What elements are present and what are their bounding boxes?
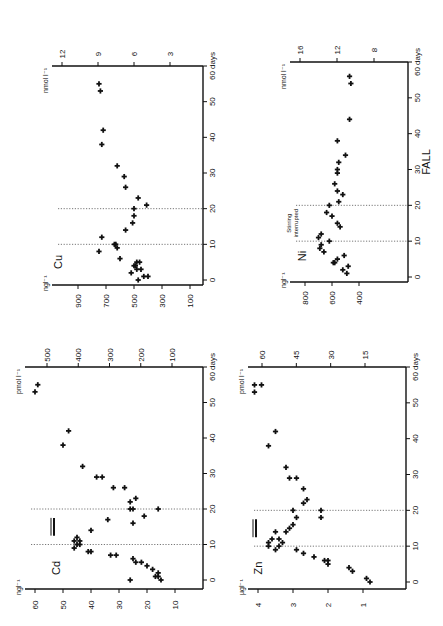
value-tick-label: 1 bbox=[359, 602, 368, 607]
data-point bbox=[142, 514, 147, 519]
value-tick-label: 800 bbox=[301, 291, 310, 305]
secondary-tick-label: 9 bbox=[94, 51, 103, 56]
data-point bbox=[74, 542, 79, 547]
data-point bbox=[311, 554, 316, 559]
data-point bbox=[111, 485, 116, 490]
data-point bbox=[96, 249, 101, 254]
value-tick-label: 700 bbox=[102, 294, 111, 308]
data-point bbox=[153, 574, 158, 579]
day-tick-label: 0 bbox=[208, 577, 217, 582]
secondary-tick-label: 8 bbox=[370, 47, 379, 52]
data-point bbox=[335, 167, 340, 172]
data-point bbox=[280, 540, 285, 545]
data-point bbox=[129, 270, 134, 275]
day-tick-label: 30 bbox=[208, 168, 217, 177]
data-point bbox=[259, 382, 264, 387]
secondary-tick-label: 500 bbox=[43, 348, 52, 362]
day-tick-label: 60 days bbox=[411, 353, 420, 381]
data-point bbox=[72, 538, 77, 543]
data-point bbox=[32, 389, 37, 394]
value-tick-label: 4 bbox=[254, 602, 263, 607]
data-point bbox=[88, 528, 93, 533]
data-point bbox=[335, 188, 340, 193]
day-tick-label: 10 bbox=[413, 236, 422, 245]
data-point bbox=[287, 475, 292, 480]
data-point bbox=[94, 474, 99, 479]
data-point bbox=[133, 496, 138, 501]
element-label: Cu bbox=[52, 255, 64, 269]
data-point bbox=[332, 181, 337, 186]
panel-zn bbox=[248, 363, 410, 593]
data-point bbox=[86, 549, 91, 554]
data-point bbox=[276, 544, 281, 549]
day-tick-label: 60 days bbox=[208, 353, 217, 381]
data-point bbox=[294, 515, 299, 520]
data-point bbox=[66, 428, 71, 433]
data-point bbox=[273, 529, 278, 534]
value-tick-label: 2 bbox=[324, 602, 333, 607]
panel-ni bbox=[290, 58, 412, 286]
primary-unit-label: ngl⁻¹ bbox=[280, 272, 288, 288]
data-point bbox=[290, 522, 295, 527]
data-point bbox=[130, 220, 135, 225]
data-point bbox=[74, 535, 79, 540]
data-point bbox=[72, 545, 77, 550]
data-point bbox=[80, 464, 85, 469]
data-point bbox=[266, 540, 271, 545]
secondary-tick-label: 200 bbox=[137, 348, 146, 362]
panel-cu bbox=[52, 62, 207, 289]
data-point bbox=[276, 536, 281, 541]
data-point bbox=[335, 138, 340, 143]
day-tick-label: 40 bbox=[208, 132, 217, 141]
data-point bbox=[324, 210, 329, 215]
secondary-tick-label: 15 bbox=[361, 350, 370, 359]
page-label-fall: FALL bbox=[420, 149, 432, 175]
element-label: Zn bbox=[252, 562, 264, 575]
value-tick-label: 900 bbox=[74, 294, 83, 308]
day-tick-label: 30 bbox=[411, 470, 420, 479]
data-point bbox=[301, 551, 306, 556]
value-tick-label: 50 bbox=[59, 600, 68, 609]
figure-canvas: 0102030405060 days10030050070090036912ng… bbox=[0, 0, 443, 626]
primary-unit-label: ngl⁻¹ bbox=[42, 275, 50, 291]
data-point bbox=[347, 117, 352, 122]
secondary-tick-label: 100 bbox=[168, 348, 177, 362]
day-tick-label: 60 days bbox=[208, 52, 217, 80]
data-point bbox=[342, 253, 347, 258]
data-point bbox=[101, 128, 106, 133]
data-point bbox=[123, 227, 128, 232]
data-point bbox=[327, 203, 332, 208]
data-point bbox=[122, 485, 127, 490]
data-point bbox=[158, 577, 163, 582]
data-point bbox=[364, 576, 369, 581]
data-point bbox=[294, 547, 299, 552]
data-point bbox=[294, 475, 299, 480]
day-tick-label: 0 bbox=[413, 274, 422, 279]
data-point bbox=[252, 382, 257, 387]
data-point bbox=[318, 508, 323, 513]
data-point bbox=[348, 81, 353, 86]
data-point bbox=[325, 558, 330, 563]
data-point bbox=[343, 153, 348, 158]
data-point bbox=[301, 486, 306, 491]
day-tick-label: 50 bbox=[413, 93, 422, 102]
day-tick-label: 10 bbox=[411, 541, 420, 550]
day-tick-label: 20 bbox=[208, 204, 217, 213]
annotation-line-1: Stirring bbox=[286, 214, 292, 233]
data-point bbox=[131, 213, 136, 218]
secondary-tick-label: 60 bbox=[258, 350, 267, 359]
data-point bbox=[252, 389, 257, 394]
day-tick-label: 60 days bbox=[413, 48, 422, 76]
data-point bbox=[336, 160, 341, 165]
data-point bbox=[108, 553, 113, 558]
data-point bbox=[344, 271, 349, 276]
day-tick-label: 40 bbox=[411, 434, 420, 443]
data-point bbox=[290, 508, 295, 513]
element-label: Ni bbox=[296, 251, 308, 261]
value-tick-label: 60 bbox=[31, 600, 40, 609]
secondary-tick-label: 12 bbox=[58, 49, 67, 58]
data-point bbox=[283, 529, 288, 534]
data-point bbox=[117, 256, 122, 261]
day-tick-label: 0 bbox=[208, 277, 217, 282]
data-point bbox=[144, 203, 149, 208]
